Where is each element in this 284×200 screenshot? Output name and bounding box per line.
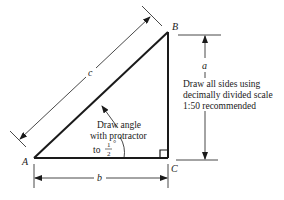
angle-note-line2: with protractor: [90, 131, 148, 141]
angle-note: Draw angle with protractor to 1 2 °: [90, 106, 148, 158]
extension-line-c-upper: [142, 6, 162, 26]
side-a-label: a: [202, 60, 207, 71]
angle-note-line1: Draw angle: [97, 120, 141, 130]
triangle-diagram: c b a Draw all sides using decimally div…: [0, 0, 284, 200]
dimension-line-c-1: [20, 77, 86, 139]
extension-line-c-lower: [10, 131, 26, 147]
scale-note-line1: Draw all sides using: [183, 79, 261, 89]
scale-note-line2: decimally divided scale: [183, 90, 273, 100]
right-angle-marker: [160, 150, 168, 158]
angle-fraction-numerator: 1: [107, 141, 111, 149]
vertex-a-label: A: [21, 156, 29, 167]
angle-note-prefix: to: [93, 145, 101, 155]
angle-fraction-denominator: 2: [107, 150, 111, 158]
side-b-label: b: [97, 172, 102, 183]
side-c-label: c: [88, 67, 93, 78]
vertex-b-label: B: [172, 21, 178, 32]
vertex-c-label: C: [171, 163, 178, 174]
angle-degree-symbol: °: [113, 139, 116, 148]
dimension-line-c-2: [96, 17, 150, 68]
scale-note-line3: 1:50 recommended: [183, 101, 256, 111]
scale-note: Draw all sides using decimally divided s…: [183, 79, 273, 111]
dimension-b: b: [34, 164, 168, 188]
